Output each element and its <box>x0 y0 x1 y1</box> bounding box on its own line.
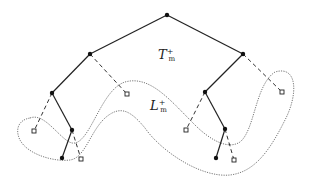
tree-label: T+m <box>158 47 175 63</box>
leaves-label: L+m <box>150 98 167 114</box>
filled-nodes <box>50 13 245 160</box>
leaves-label-sub: m <box>160 106 167 114</box>
leaves-label-base: L <box>150 98 159 113</box>
tree-diagram <box>0 0 311 186</box>
tree-label-sub: m <box>168 55 175 63</box>
solid-edges <box>52 15 243 158</box>
tree-label-base: T <box>158 47 167 62</box>
leaf-region-outline <box>18 71 294 175</box>
